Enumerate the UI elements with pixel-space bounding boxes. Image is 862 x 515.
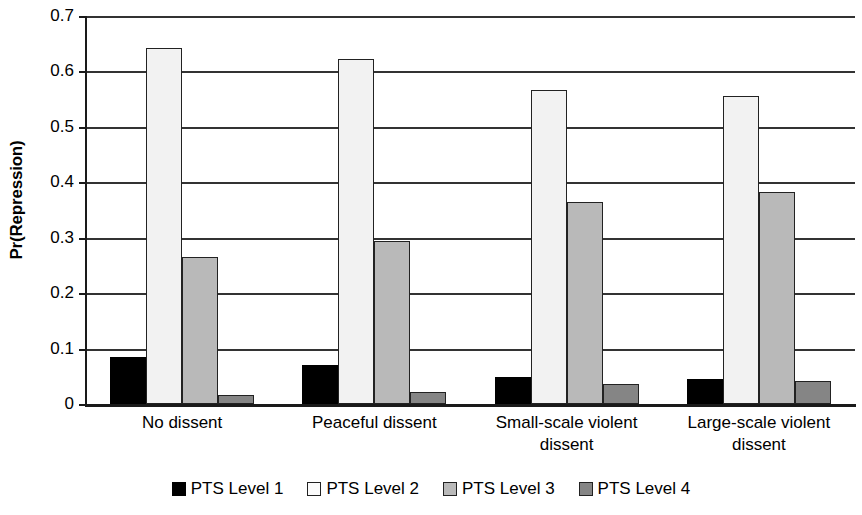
y-axis-tick-label: 0.1 xyxy=(22,340,74,357)
x-axis-tick-label: Small-scale violent dissent xyxy=(471,412,663,456)
bars-layer xyxy=(86,16,855,404)
legend-label: PTS Level 1 xyxy=(191,480,284,497)
legend-label: PTS Level 2 xyxy=(326,480,419,497)
y-axis-tick-label: 0.6 xyxy=(22,62,74,79)
bar-chart-figure: Pr(Repression) 00.10.20.30.40.50.60.7 No… xyxy=(0,0,862,515)
bar[interactable] xyxy=(302,365,338,404)
legend-item[interactable]: PTS Level 1 xyxy=(172,480,284,497)
bar[interactable] xyxy=(723,96,759,404)
legend-item[interactable]: PTS Level 2 xyxy=(307,480,419,497)
bar[interactable] xyxy=(795,381,831,404)
y-axis-tick-label: 0.4 xyxy=(22,173,74,190)
y-axis-tick-label: 0 xyxy=(22,395,74,412)
legend-label: PTS Level 3 xyxy=(462,480,555,497)
bar-group xyxy=(495,16,639,404)
bar[interactable] xyxy=(759,192,795,404)
x-axis-line xyxy=(85,404,856,407)
legend-swatch-icon xyxy=(172,482,186,496)
bar-group xyxy=(110,16,254,404)
bar[interactable] xyxy=(567,202,603,404)
x-axis-tick-label: Large-scale violent dissent xyxy=(663,412,855,456)
x-axis-tick-label: Peaceful dissent xyxy=(278,412,470,434)
bar[interactable] xyxy=(374,241,410,405)
y-axis-tick-label: 0.5 xyxy=(22,118,74,135)
chart-legend: PTS Level 1PTS Level 2PTS Level 3PTS Lev… xyxy=(0,480,862,497)
bar-group xyxy=(687,16,831,404)
legend-swatch-icon xyxy=(307,482,321,496)
y-axis-tick-label: 0.3 xyxy=(22,229,74,246)
x-axis-tick-labels: No dissentPeaceful dissentSmall-scale vi… xyxy=(86,412,855,468)
legend-item[interactable]: PTS Level 4 xyxy=(579,480,691,497)
bar[interactable] xyxy=(218,395,254,404)
bar[interactable] xyxy=(603,384,639,405)
y-axis-tick-label: 0.7 xyxy=(22,7,74,24)
legend-item[interactable]: PTS Level 3 xyxy=(443,480,555,497)
y-axis-tick-label: 0.2 xyxy=(22,284,74,301)
legend-swatch-icon xyxy=(579,482,593,496)
plot-area xyxy=(86,16,855,404)
bar[interactable] xyxy=(410,392,446,404)
bar[interactable] xyxy=(495,377,531,404)
bar[interactable] xyxy=(531,90,567,404)
legend-swatch-icon xyxy=(443,482,457,496)
bar[interactable] xyxy=(182,257,218,404)
bar[interactable] xyxy=(687,379,723,404)
y-axis-tick-labels: 00.10.20.30.40.50.60.7 xyxy=(22,16,74,404)
bar-group xyxy=(302,16,446,404)
bar[interactable] xyxy=(146,48,182,404)
x-axis-tick-label: No dissent xyxy=(86,412,278,434)
bar[interactable] xyxy=(110,357,146,404)
bar[interactable] xyxy=(338,59,374,404)
legend-label: PTS Level 4 xyxy=(598,480,691,497)
